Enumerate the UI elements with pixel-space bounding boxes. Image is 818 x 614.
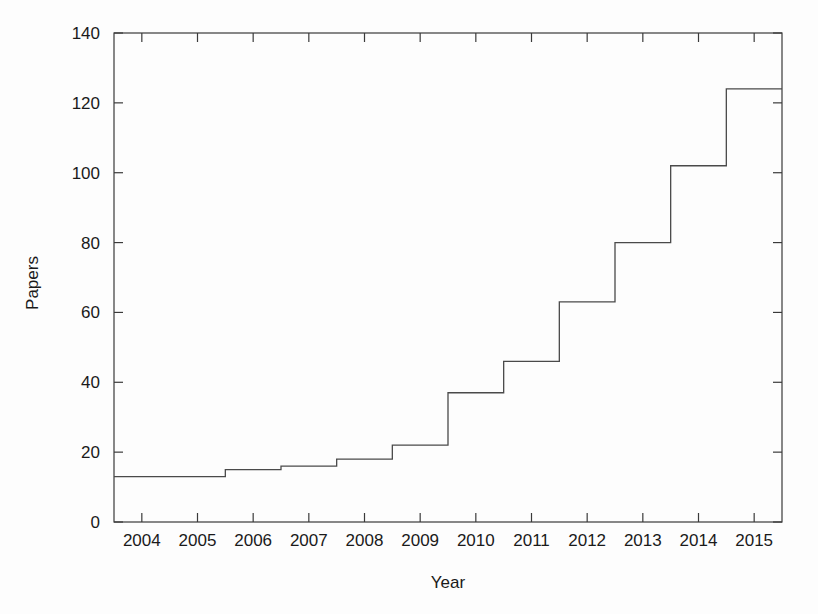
- x-tick-label: 2004: [123, 531, 161, 550]
- x-tick-label: 2012: [568, 531, 606, 550]
- plot-border: [114, 33, 782, 522]
- x-tick-label: 2009: [401, 531, 439, 550]
- y-axis-ticks: [114, 33, 782, 522]
- y-tick-label: 140: [72, 24, 100, 43]
- y-tick-label: 0: [91, 513, 100, 532]
- x-tick-label: 2007: [290, 531, 328, 550]
- y-tick-label: 100: [72, 164, 100, 183]
- x-tick-label: 2010: [457, 531, 495, 550]
- y-tick-label: 20: [81, 443, 100, 462]
- y-tick-label: 40: [81, 373, 100, 392]
- x-tick-label: 2005: [179, 531, 217, 550]
- x-axis-ticks: [142, 33, 754, 522]
- x-axis-title: Year: [431, 573, 466, 592]
- y-tick-label: 60: [81, 303, 100, 322]
- x-tick-label: 2015: [735, 531, 773, 550]
- y-tick-label: 120: [72, 94, 100, 113]
- step-series-papers: [114, 89, 782, 477]
- x-tick-label: 2006: [234, 531, 272, 550]
- y-axis-tick-labels: 020406080100120140: [72, 24, 100, 532]
- y-tick-label: 80: [81, 234, 100, 253]
- chart-page: 020406080100120140 200420052006200720082…: [0, 0, 818, 614]
- step-path-papers: [114, 89, 782, 477]
- x-tick-label: 2011: [513, 531, 550, 550]
- y-axis-title: Papers: [23, 256, 42, 310]
- x-tick-label: 2013: [624, 531, 662, 550]
- x-tick-label: 2014: [680, 531, 718, 550]
- papers-per-year-step-chart: 020406080100120140 200420052006200720082…: [0, 0, 818, 614]
- plot-frame: [114, 33, 782, 522]
- x-tick-label: 2008: [346, 531, 384, 550]
- x-axis-tick-labels: 2004200520062007200820092010201120122013…: [123, 531, 773, 550]
